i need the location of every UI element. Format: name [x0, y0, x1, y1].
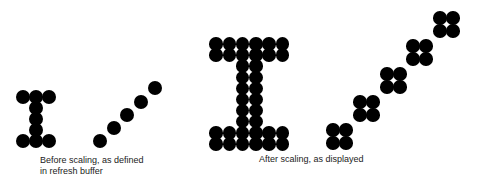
pixel-dot: [29, 134, 43, 148]
pixel-dot: [366, 108, 380, 122]
pixel-dot: [276, 137, 290, 151]
pixel-dot: [209, 48, 223, 62]
pixel-dot: [42, 90, 56, 104]
pixel-dot: [16, 134, 30, 148]
pixel-dot: [339, 123, 353, 137]
pixel-dot: [236, 137, 250, 151]
left-caption-line1: Before scaling, as defined: [40, 155, 144, 166]
pixel-dot: [93, 134, 107, 148]
pixel-dot: [209, 137, 223, 151]
pixel-dot: [134, 95, 148, 109]
right-caption: After scaling, as displayed: [259, 154, 364, 165]
pixel-dot: [107, 121, 121, 135]
pixel-dot: [419, 39, 433, 53]
pixel-dot: [433, 11, 447, 25]
pixel-dot: [339, 136, 353, 150]
pixel-dot: [380, 80, 394, 94]
pixel-dot: [406, 39, 420, 53]
pixel-dot: [406, 52, 420, 66]
pixel-dot: [353, 95, 367, 109]
pixel-dot: [148, 81, 162, 95]
pixel-dot: [249, 137, 263, 151]
pixel-dot: [16, 90, 30, 104]
figure: Before scaling, as defined in refresh bu…: [0, 0, 482, 181]
left-caption-line2: in refresh buffer: [40, 166, 103, 177]
pixel-dot: [380, 67, 394, 81]
pixel-dot: [262, 137, 276, 151]
pixel-dot: [120, 108, 134, 122]
pixel-dot: [262, 48, 276, 62]
pixel-dot: [446, 11, 460, 25]
pixel-dot: [353, 108, 367, 122]
pixel-dot: [326, 123, 340, 137]
pixel-dot: [393, 67, 407, 81]
pixel-dot: [223, 48, 237, 62]
pixel-dot: [446, 24, 460, 38]
pixel-dot: [276, 48, 290, 62]
pixel-dot: [433, 24, 447, 38]
pixel-dot: [366, 95, 380, 109]
pixel-dot: [419, 52, 433, 66]
pixel-dot: [42, 134, 56, 148]
pixel-dot: [326, 136, 340, 150]
pixel-dot: [393, 80, 407, 94]
pixel-dot: [223, 137, 237, 151]
